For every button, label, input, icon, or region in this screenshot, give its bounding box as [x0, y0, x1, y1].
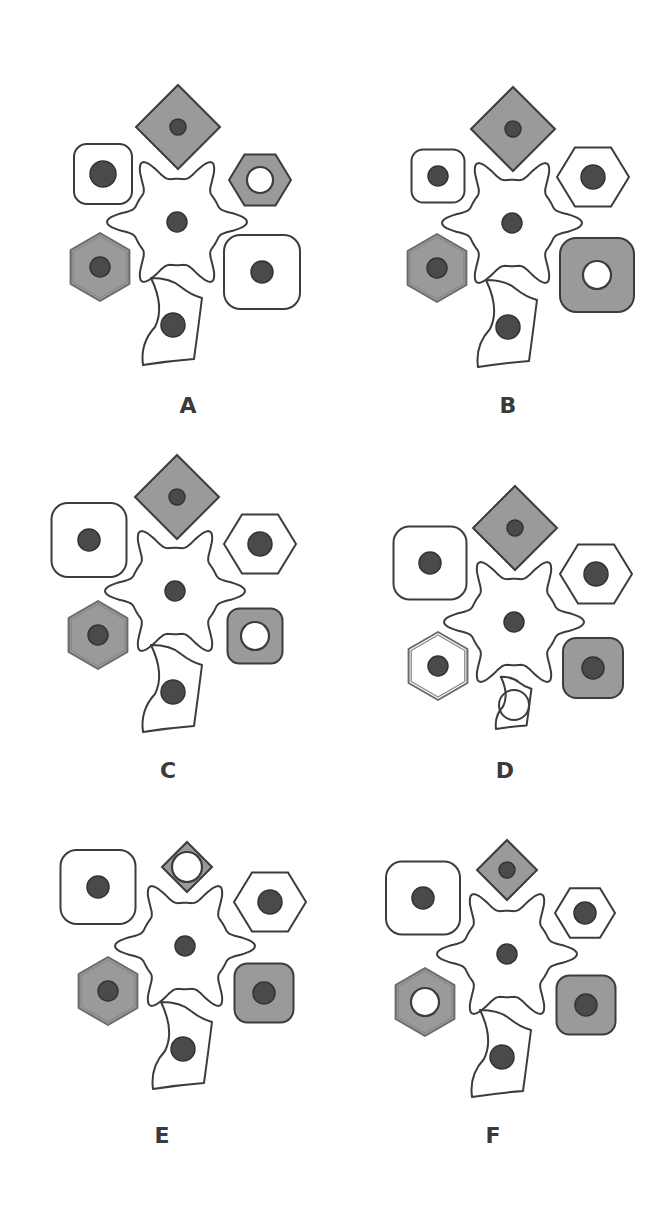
nucleus-dark — [78, 529, 100, 551]
nucleus-dark — [499, 862, 515, 878]
nucleus-dark — [170, 119, 186, 135]
nucleus-dark — [496, 315, 520, 339]
nucleus-dark — [248, 532, 272, 556]
cell-hexagon2 — [409, 632, 468, 700]
nucleus-dark — [574, 902, 596, 924]
cell-rsquare — [412, 150, 465, 203]
nucleus-ring — [241, 622, 269, 650]
nucleus-dark — [87, 876, 109, 898]
nucleus-dark — [251, 261, 273, 283]
nucleus-dark — [412, 887, 434, 909]
cell-hexagon2 — [69, 601, 128, 669]
nucleus-dark — [584, 562, 608, 586]
panel-d — [394, 486, 633, 729]
cell-hexagon — [560, 544, 632, 603]
nucleus-dark — [419, 552, 441, 574]
nucleus-dark — [505, 121, 521, 137]
cell-rsquare — [563, 638, 623, 698]
nucleus-dark — [575, 994, 597, 1016]
cell-diamond — [162, 842, 212, 892]
cell-hexagon2 — [71, 233, 130, 301]
panel-label-c: C — [148, 758, 188, 783]
nucleus-dark — [504, 612, 524, 632]
nucleus-dark — [175, 936, 195, 956]
cell-hexagon2 — [79, 957, 138, 1025]
cell-diamond — [136, 85, 220, 169]
cell-hexagon — [234, 872, 306, 931]
cell-rsquare — [235, 964, 294, 1023]
nucleus-dark — [427, 258, 447, 278]
cell-bottom — [143, 278, 203, 365]
nucleus-dark — [507, 520, 523, 536]
cell-hexagon2 — [396, 968, 455, 1036]
cell-diamond — [477, 840, 537, 900]
nucleus-dark — [428, 656, 448, 676]
cell-rsquare — [228, 609, 283, 664]
nucleus-dark — [88, 625, 108, 645]
panel-label-d: D — [485, 758, 525, 783]
nucleus-dark — [98, 981, 118, 1001]
cell-bottom — [472, 1010, 532, 1097]
cell-hexagon — [224, 514, 296, 573]
nucleus-ring — [583, 261, 611, 289]
nucleus-dark — [169, 489, 185, 505]
cell-rsquare — [52, 503, 127, 577]
cell-diamond — [135, 455, 219, 539]
nucleus-dark — [167, 212, 187, 232]
nucleus-ring — [411, 988, 439, 1016]
cell-rsquare — [394, 527, 467, 600]
panel-a — [71, 85, 300, 365]
panel-b — [408, 87, 634, 367]
cell-hexagon — [557, 147, 629, 206]
cell-rsquare — [557, 976, 616, 1035]
nucleus-dark — [253, 982, 275, 1004]
nucleus-dark — [490, 1045, 514, 1069]
cell-hexagon — [229, 155, 291, 206]
nucleus-dark — [161, 313, 185, 337]
nucleus-dark — [90, 257, 110, 277]
panel-label-f: F — [473, 1123, 513, 1148]
cell-bottom — [153, 1002, 213, 1089]
panel-label-a: A — [168, 393, 208, 418]
nucleus-dark — [171, 1037, 195, 1061]
cell-rsquare — [224, 235, 300, 309]
nucleus-dark — [165, 581, 185, 601]
panel-label-e: E — [142, 1123, 182, 1148]
cell-rsquare — [74, 144, 132, 204]
cell-rsquare — [560, 238, 634, 312]
nucleus-dark — [497, 944, 517, 964]
nucleus-dark — [581, 165, 605, 189]
nucleus-ring — [247, 167, 273, 193]
cell-rsquare — [386, 862, 460, 935]
cell-hexagon — [555, 888, 615, 937]
cell-hexagon2 — [408, 234, 467, 302]
panel-c — [52, 455, 297, 732]
cell-bottom — [143, 645, 203, 732]
panel-f — [386, 840, 616, 1097]
cell-diamond — [471, 87, 555, 171]
nucleus-dark — [90, 161, 116, 187]
nucleus-ring — [172, 852, 202, 882]
panel-e — [61, 842, 307, 1089]
panel-label-b: B — [488, 393, 528, 418]
cell-rsquare — [61, 850, 136, 924]
nucleus-dark — [582, 657, 604, 679]
cell-diamond — [473, 486, 557, 570]
nucleus-dark — [161, 680, 185, 704]
cell-diagram-canvas — [0, 0, 668, 1209]
nucleus-dark — [502, 213, 522, 233]
nucleus-dark — [428, 166, 448, 186]
nucleus-dark — [258, 890, 282, 914]
cell-bottom — [496, 677, 532, 729]
cell-bottom — [478, 280, 538, 367]
